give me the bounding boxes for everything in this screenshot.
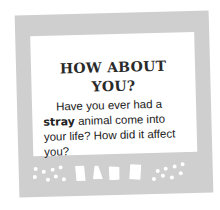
body-emphasis: stray: [43, 115, 75, 129]
left-dots-decoration: [15, 10, 209, 15]
card-panel: HOW ABOUT YOU? Have you ever had a stray…: [30, 32, 197, 156]
rectangles-decoration: [15, 10, 209, 15]
card-heading: HOW ABOUT YOU?: [31, 56, 196, 98]
right-dots-decoration: [15, 10, 209, 15]
body-pre: Have you ever had a: [56, 98, 162, 113]
card-frame: HOW ABOUT YOU? Have you ever had a stray…: [15, 10, 214, 197]
card-body-text: Have you ever had a stray animal come in…: [43, 96, 192, 160]
heading-line-2: YOU?: [31, 75, 195, 98]
